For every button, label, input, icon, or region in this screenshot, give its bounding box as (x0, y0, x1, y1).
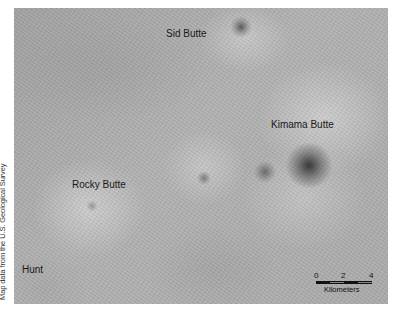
label-hunt: Hunt (22, 264, 43, 275)
shaded-relief-map: Sid Butte Kimama Butte Rocky Butte Hunt … (14, 8, 388, 304)
kimama-butte-vent (284, 143, 334, 188)
scale-bar: 0 2 4 Kilometers (314, 271, 380, 295)
scale-tick-2: 2 (341, 271, 345, 280)
scale-tick-0: 0 (314, 271, 318, 280)
central-vent (197, 171, 211, 185)
sid-butte-vent (230, 16, 252, 38)
label-sid-butte: Sid Butte (166, 28, 207, 39)
label-kimama-butte: Kimama Butte (271, 119, 334, 130)
scale-unit: Kilometers (324, 285, 359, 294)
rocky-butte-vent (86, 200, 98, 212)
scale-tick-4: 4 (369, 271, 373, 280)
map-credit: Map data from the U.S. Geological Survey (0, 90, 8, 300)
scale-bar-line (316, 281, 372, 284)
kimama-secondary-vent (254, 160, 276, 184)
label-rocky-butte: Rocky Butte (72, 179, 126, 190)
